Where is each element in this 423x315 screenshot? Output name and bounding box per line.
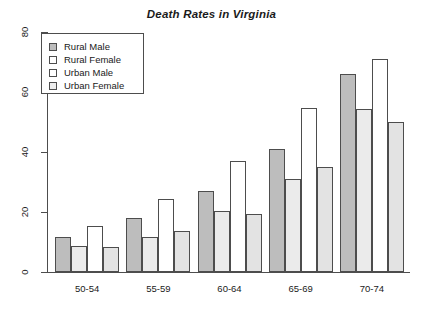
legend: Rural MaleRural FemaleUrban MaleUrban Fe… (41, 33, 144, 94)
legend-swatch-icon (49, 56, 57, 64)
bar-70-74-urban-female (388, 122, 404, 272)
bar-55-59-rural-female (142, 237, 158, 272)
bar-65-69-rural-female (285, 179, 301, 272)
bar-50-54-rural-female (71, 246, 87, 272)
x-axis-label-55-59: 55-59 (126, 283, 190, 294)
legend-item-label: Rural Female (64, 55, 121, 65)
bar-70-74-rural-male (340, 74, 356, 272)
bar-55-59-rural-male (126, 218, 142, 272)
legend-swatch-icon (49, 69, 57, 77)
bar-60-64-urban-male (230, 161, 246, 272)
x-axis-label-65-69: 65-69 (269, 283, 333, 294)
legend-item-label: Urban Female (64, 81, 124, 91)
bar-50-54-urban-male (87, 226, 103, 272)
legend-item-label: Urban Male (64, 68, 113, 78)
legend-item-rural-female: Rural Female (49, 53, 121, 66)
bar-70-74-urban-male (372, 59, 388, 272)
bar-60-64-urban-female (246, 214, 262, 272)
x-axis-line (47, 272, 410, 273)
bar-60-64-rural-male (198, 191, 214, 272)
y-axis-tick (41, 272, 47, 273)
legend-item-label: Rural Male (64, 42, 110, 52)
bar-65-69-urban-female (317, 167, 333, 272)
bar-70-74-rural-female (356, 109, 372, 272)
chart-screenshot: Death Rates in Virginia 020406080 50-545… (0, 0, 423, 315)
y-axis-tick-label: 20 (19, 199, 31, 225)
x-axis-label-60-64: 60-64 (198, 283, 262, 294)
bar-60-64-rural-female (214, 211, 230, 272)
bar-55-59-urban-female (174, 231, 190, 272)
bar-50-54-urban-female (103, 247, 119, 272)
page-title: Death Rates in Virginia (0, 8, 423, 20)
legend-swatch-icon (49, 43, 57, 51)
bar-65-69-rural-male (269, 149, 285, 272)
x-axis-label-70-74: 70-74 (340, 283, 404, 294)
legend-item-rural-male: Rural Male (49, 40, 110, 53)
legend-swatch-icon (49, 82, 57, 90)
y-axis-tick-label: 60 (19, 79, 31, 105)
y-axis-tick (41, 152, 47, 153)
y-axis-tick-label: 0 (19, 259, 31, 285)
x-axis-label-50-54: 50-54 (55, 283, 119, 294)
y-axis-tick-label: 40 (19, 139, 31, 165)
y-axis-tick-label: 80 (19, 19, 31, 45)
bar-55-59-urban-male (158, 199, 174, 272)
bar-50-54-rural-male (55, 237, 71, 272)
bar-65-69-urban-male (301, 108, 317, 272)
legend-item-urban-female: Urban Female (49, 79, 124, 92)
y-axis-tick (41, 212, 47, 213)
legend-item-urban-male: Urban Male (49, 66, 113, 79)
